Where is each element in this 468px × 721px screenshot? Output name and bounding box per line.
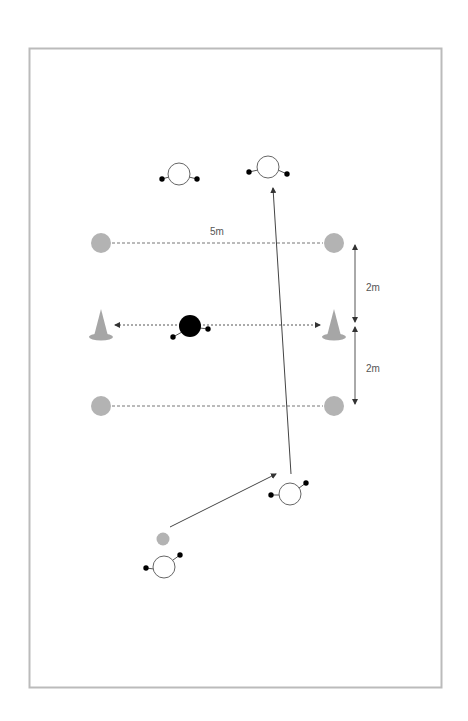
hand-icon xyxy=(205,326,210,331)
marker-top-left xyxy=(91,233,111,253)
hand-icon xyxy=(194,176,199,181)
marker-top-right xyxy=(324,233,344,253)
marker-bottom-left xyxy=(91,396,111,416)
hand-icon xyxy=(246,169,251,174)
hand-icon xyxy=(177,552,182,557)
gap-bottom-label: 2m xyxy=(366,363,380,374)
ball xyxy=(157,533,170,546)
hand-icon xyxy=(284,171,289,176)
marker-bottom-right xyxy=(324,396,344,416)
gap-top-label: 2m xyxy=(366,282,380,293)
hand-icon xyxy=(143,565,148,570)
width-label: 5m xyxy=(210,226,224,237)
hand-icon xyxy=(303,480,308,485)
hand-icon xyxy=(159,176,164,181)
drill-diagram: 5m 2m 2m xyxy=(0,0,468,721)
hand-icon xyxy=(268,492,273,497)
hand-icon xyxy=(170,334,175,339)
